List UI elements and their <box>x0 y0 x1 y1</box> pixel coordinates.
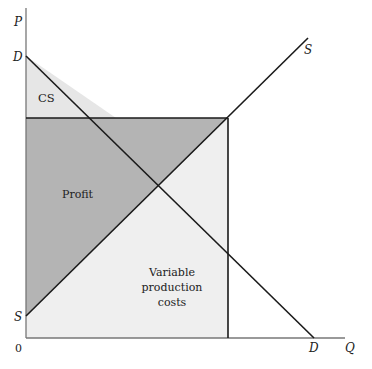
variable-costs-label-line2: production <box>142 281 203 294</box>
x-axis-label: Q <box>345 341 355 355</box>
consumer-surplus-label: CS <box>38 91 55 105</box>
origin-label: 0 <box>15 342 22 355</box>
demand-end-label: D <box>308 341 319 355</box>
demand-start-label: D <box>12 50 23 64</box>
economics-diagram: P Q 0 D D S S CS Profit Variable product… <box>0 0 372 369</box>
supply-start-label: S <box>14 310 22 324</box>
profit-label: Profit <box>62 188 94 201</box>
y-axis-label: P <box>13 15 23 29</box>
supply-end-label: S <box>304 43 312 57</box>
consumer-surplus-region <box>26 56 116 118</box>
variable-costs-label-line3: costs <box>158 296 187 309</box>
variable-costs-label-line1: Variable <box>148 266 195 279</box>
